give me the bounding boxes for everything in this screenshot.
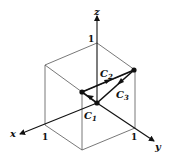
cube-diagram: z x y 1 1 1 C2 C3 C1 — [0, 0, 170, 162]
c1-label: C1 — [84, 110, 97, 123]
y-axis — [97, 103, 154, 141]
c3-label: C3 — [116, 89, 129, 102]
point-origin — [94, 100, 99, 105]
axes — [20, 16, 154, 141]
point-left — [79, 89, 84, 94]
z-axis-label: z — [93, 6, 100, 17]
y-tick-label: 1 — [131, 132, 137, 142]
z-tick-label: 1 — [88, 34, 94, 44]
x-axis-label: x — [9, 128, 17, 139]
x-tick-label: 1 — [42, 132, 48, 142]
c2-label: C2 — [100, 68, 113, 81]
y-axis-label: y — [154, 141, 162, 152]
point-right — [131, 67, 136, 72]
